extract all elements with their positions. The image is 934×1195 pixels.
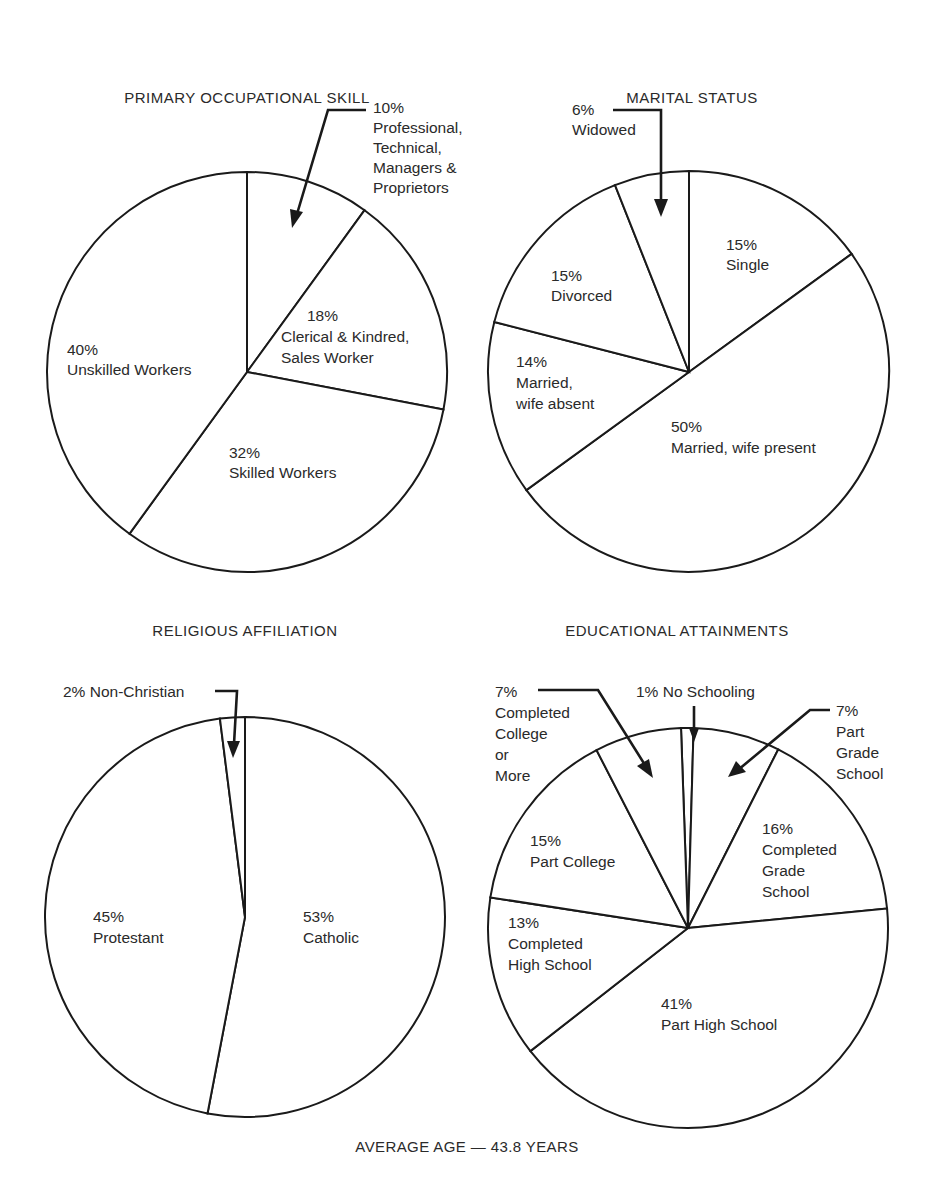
marital-pie-chart: MARITAL STATUS 6% Widowed 15% Single 15%… [488,89,889,572]
education-pie [488,728,888,1128]
no-schooling-label: 1% No Schooling [636,683,755,700]
religion-chart-title: RELIGIOUS AFFILIATION [152,622,337,639]
widowed-label: 6% Widowed [572,101,636,138]
infographic-canvas: PRIMARY OCCUPATIONAL SKILL 10% Professio… [0,0,934,1195]
occupation-chart-title: PRIMARY OCCUPATIONAL SKILL [124,89,370,106]
marital-chart-title: MARITAL STATUS [626,89,757,106]
completed-college-label: 7% Completed College or More [495,683,574,784]
religion-pie-chart: RELIGIOUS AFFILIATION 2% Non-Christian 4… [45,622,445,1117]
professional-label: 10% Professional, Technical, Managers & … [373,99,467,196]
part-grade-school-label: 7% Part Grade School [836,702,883,782]
nonchristian-label: 2% Non-Christian [63,683,184,700]
education-chart-title: EDUCATIONAL ATTAINMENTS [565,622,788,639]
marital-pie [488,171,889,572]
occupation-pie-chart: PRIMARY OCCUPATIONAL SKILL 10% Professio… [47,89,467,572]
pie-slice-protestant [45,719,245,1114]
education-pie-chart: EDUCATIONAL ATTAINMENTS 7% Completed Col… [488,622,888,1128]
average-age-caption: AVERAGE AGE — 43.8 YEARS [355,1138,578,1155]
